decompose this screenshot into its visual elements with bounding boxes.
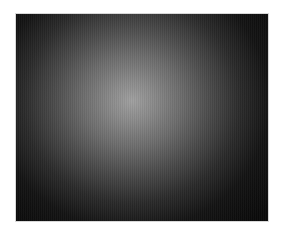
radial-gradient-image	[16, 14, 268, 221]
texture-overlay	[16, 14, 268, 221]
